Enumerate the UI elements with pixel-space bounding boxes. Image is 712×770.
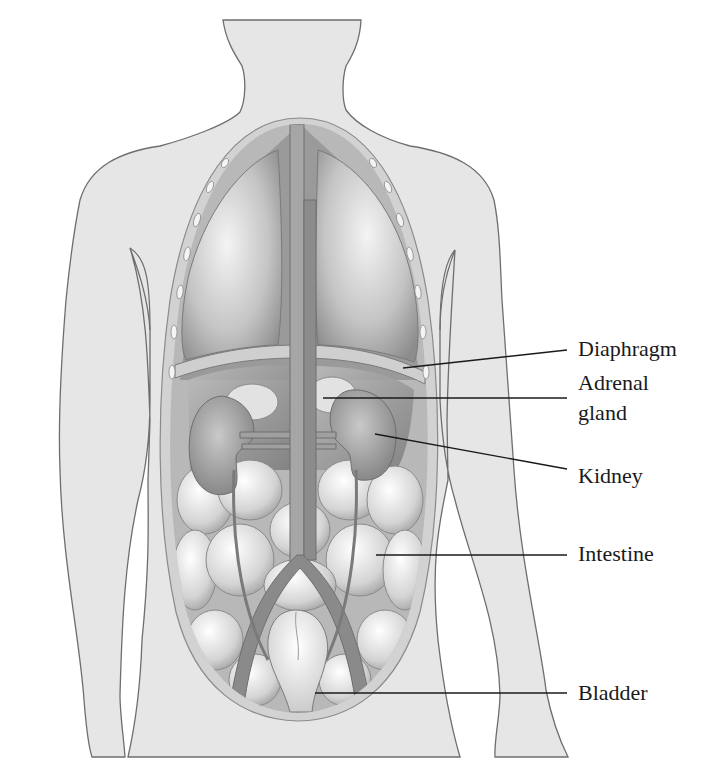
label-bladder: Bladder bbox=[578, 680, 648, 706]
label-diaphragm: Diaphragm bbox=[578, 336, 677, 362]
anatomy-diagram: Diaphragm Adrenal gland Kidney Intestine… bbox=[0, 0, 712, 770]
aorta bbox=[290, 124, 304, 564]
label-intestine: Intestine bbox=[578, 541, 654, 567]
label-adrenal: Adrenal bbox=[578, 370, 649, 396]
vena-cava bbox=[304, 200, 316, 560]
label-kidney: Kidney bbox=[578, 463, 643, 489]
label-gland: gland bbox=[578, 400, 627, 426]
